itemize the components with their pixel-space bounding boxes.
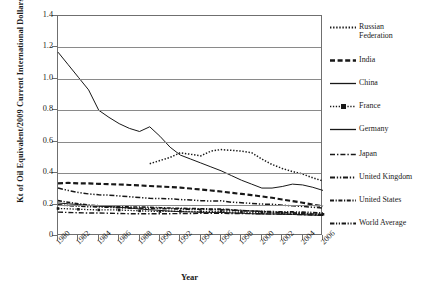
series-marker <box>97 209 100 212</box>
legend-label-france: France <box>356 101 380 110</box>
series-marker <box>77 208 80 211</box>
y-tick-label: 0 <box>19 231 53 239</box>
legend-label-china: China <box>356 78 378 87</box>
y-tick-label: 0.8 <box>19 105 53 113</box>
legend-swatch-india-icon <box>330 56 356 65</box>
legend-item-france[interactable]: France <box>330 101 436 111</box>
legend-item-china[interactable]: China <box>330 78 436 88</box>
legend-label-india: India <box>356 55 375 64</box>
gridline <box>58 205 321 206</box>
series-layer <box>58 16 323 236</box>
y-tick-label: 0.6 <box>19 137 53 145</box>
y-tick-label: 1.2 <box>19 42 53 50</box>
legend-label-united-kingdom: United Kingdom <box>356 172 412 181</box>
legend-swatch-china-icon <box>330 79 356 88</box>
legend-label-world-average: World Average <box>356 218 406 227</box>
series-marker <box>138 210 141 213</box>
legend-label-russian-federation: Russian Federation <box>356 22 405 40</box>
line-chart: Kt of Oil Equivalent/2009 Current Intern… <box>0 0 436 288</box>
legend-label-germany: Germany <box>356 124 388 133</box>
series-marker <box>57 207 60 210</box>
y-tick-label: 0.4 <box>19 168 53 176</box>
legend-item-japan[interactable]: Japan <box>330 149 436 159</box>
plot-area <box>57 15 322 235</box>
series-line-china <box>58 52 323 190</box>
y-tick-label: 1.0 <box>19 74 53 82</box>
legend-item-united-states[interactable]: United States <box>330 195 436 205</box>
legend-swatch-united-states-icon <box>330 196 356 205</box>
gridline <box>58 142 321 143</box>
legend-item-russian-federation[interactable]: Russian Federation <box>330 22 436 40</box>
series-line-russian-federation <box>150 150 323 181</box>
x-axis-title: Year <box>57 272 322 282</box>
legend-label-japan: Japan <box>356 149 377 158</box>
gridline <box>58 47 321 48</box>
legend-swatch-world-average-icon <box>330 219 356 228</box>
y-tick-label: 0.2 <box>19 200 53 208</box>
legend-swatch-japan-icon <box>330 150 356 159</box>
legend-label-united-states: United States <box>356 195 401 204</box>
legend-swatch-russian-federation-icon <box>330 23 356 32</box>
gridline <box>58 110 321 111</box>
chart-legend: Russian FederationIndiaChinaFranceGerman… <box>330 22 436 236</box>
legend-item-germany[interactable]: Germany <box>330 124 436 134</box>
gridline <box>58 79 321 80</box>
y-tick-label: 1.4 <box>19 11 53 19</box>
legend-swatch-france-icon <box>330 102 356 111</box>
legend-item-india[interactable]: India <box>330 55 436 65</box>
legend-swatch-united-kingdom-icon <box>330 173 356 182</box>
legend-swatch-germany-icon <box>330 125 356 134</box>
gridline <box>58 173 321 174</box>
series-marker <box>118 209 121 212</box>
legend-item-united-kingdom[interactable]: United Kingdom <box>330 172 436 182</box>
legend-item-world-average[interactable]: World Average <box>330 218 436 228</box>
